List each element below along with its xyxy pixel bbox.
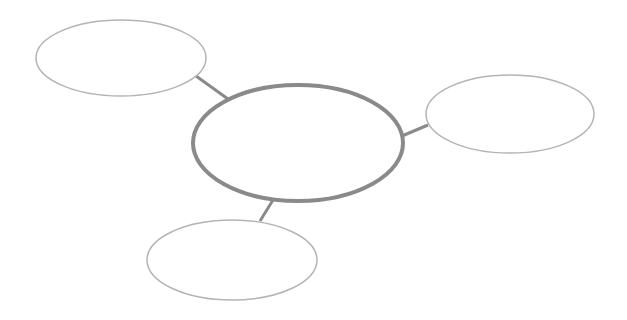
connector-bottom-left bbox=[260, 200, 273, 221]
connector-right bbox=[402, 125, 428, 136]
node-bottom-left[interactable] bbox=[147, 220, 317, 300]
node-right[interactable] bbox=[426, 75, 594, 153]
connector-top-left bbox=[196, 76, 228, 99]
node-center[interactable] bbox=[193, 85, 403, 201]
node-top-left[interactable] bbox=[36, 20, 206, 96]
mind-map-diagram bbox=[0, 0, 627, 320]
